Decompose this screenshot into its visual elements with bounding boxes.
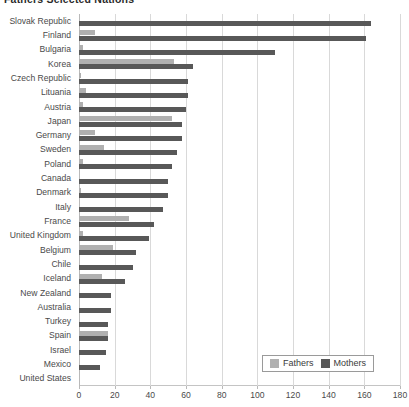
bar-mothers	[79, 107, 186, 112]
x-axis-ticks: 020406080100120140160180	[79, 386, 400, 402]
gridline-160	[364, 14, 365, 386]
y-axis-label: Austria	[44, 103, 71, 112]
y-axis-label: United Kingdom	[10, 231, 71, 240]
bar-fathers	[79, 30, 95, 35]
x-tick-label: 0	[77, 390, 82, 400]
x-tick-label: 40	[146, 390, 156, 400]
y-axis-label: Korea	[48, 60, 71, 69]
bar-fathers	[79, 159, 83, 164]
bar-mothers	[79, 136, 182, 141]
bar-mothers	[79, 350, 106, 355]
bar-fathers	[79, 188, 81, 193]
x-tick-mark-160	[364, 386, 365, 389]
bar-mothers	[79, 36, 366, 41]
y-axis-label: France	[44, 217, 71, 226]
bar-mothers	[79, 150, 177, 155]
bar-mothers	[79, 122, 182, 127]
x-tick-mark-140	[329, 386, 330, 389]
y-axis-label: Turkey	[45, 317, 71, 326]
gridline-180	[400, 14, 401, 386]
bar-mothers	[79, 164, 172, 169]
legend-swatch-fathers-icon	[270, 359, 279, 368]
x-tick-mark-100	[257, 386, 258, 389]
x-tick-label: 120	[286, 390, 300, 400]
bar-fathers	[79, 130, 95, 135]
bar-mothers	[79, 179, 168, 184]
legend-label: Fathers	[283, 359, 314, 368]
legend-label: Mothers	[334, 359, 367, 368]
y-axis-label: Mexico	[44, 360, 71, 369]
bar-mothers	[79, 193, 168, 198]
y-axis-label: Belgium	[40, 246, 71, 255]
y-axis-label: Bulgaria	[39, 45, 71, 54]
x-tick-mark-80	[222, 386, 223, 389]
bar-mothers	[79, 222, 154, 227]
bar-fathers	[79, 45, 83, 50]
y-axis-label: Poland	[44, 160, 71, 169]
chart-legend: FathersMothers	[262, 355, 374, 372]
bar-fathers	[79, 102, 83, 107]
y-axis-label: Czech Republic	[11, 74, 71, 83]
gridline-120	[293, 14, 294, 386]
y-axis-label: Canada	[41, 174, 71, 183]
y-axis-label: Germany	[36, 131, 71, 140]
y-axis-label: Lituania	[41, 88, 71, 97]
x-tick-label: 100	[250, 390, 264, 400]
bar-mothers	[79, 322, 108, 327]
bar-fathers	[79, 88, 86, 93]
bar-fathers	[79, 145, 104, 150]
y-axis-label: Chile	[51, 260, 71, 269]
chart-title: Fathers Selected Nations	[4, 0, 134, 5]
x-tick-label: 180	[393, 390, 407, 400]
bar-mothers	[79, 250, 136, 255]
y-axis-label: Slovak Republic	[9, 17, 71, 26]
bar-mothers	[79, 50, 275, 55]
bar-fathers	[79, 245, 113, 250]
bar-fathers	[79, 73, 81, 78]
y-axis-label: United States	[19, 374, 71, 383]
x-tick-label: 160	[357, 390, 371, 400]
bar-mothers	[79, 265, 133, 270]
y-axis-label: Spain	[49, 331, 71, 340]
gridline-80	[222, 14, 223, 386]
x-tick-mark-120	[293, 386, 294, 389]
bar-mothers	[79, 64, 193, 69]
y-axis-label: Finland	[43, 31, 71, 40]
gridline-40	[150, 14, 151, 386]
x-tick-label: 80	[217, 390, 227, 400]
y-axis-label: Japan	[48, 117, 71, 126]
bar-fathers	[79, 59, 174, 64]
y-axis-label: Denmark	[36, 188, 71, 197]
bar-mothers	[79, 79, 188, 84]
bar-mothers	[79, 93, 188, 98]
gridline-140	[329, 14, 330, 386]
y-axis-label: New Zealand	[20, 289, 71, 298]
y-axis-label: Sweden	[40, 145, 71, 154]
y-axis-label: Israel	[50, 346, 71, 355]
x-tick-label: 140	[321, 390, 335, 400]
bar-mothers	[79, 207, 163, 212]
gridline-60	[186, 14, 187, 386]
x-tick-label: 20	[110, 390, 120, 400]
x-tick-label: 60	[181, 390, 191, 400]
x-tick-mark-60	[186, 386, 187, 389]
bar-mothers	[79, 236, 149, 241]
plot-area	[79, 14, 400, 386]
bar-fathers	[79, 116, 172, 121]
y-axis-category-labels: Slovak RepublicFinlandBulgariaKoreaCzech…	[0, 14, 75, 386]
legend-swatch-mothers-icon	[321, 359, 330, 368]
bar-fathers	[79, 231, 83, 236]
y-axis-label: Iceland	[43, 274, 71, 283]
bar-mothers	[79, 293, 111, 298]
bar-mothers	[79, 21, 371, 26]
legend-entry-mothers[interactable]: Mothers	[321, 359, 367, 368]
x-tick-mark-40	[150, 386, 151, 389]
bar-fathers	[79, 216, 129, 221]
bar-mothers	[79, 365, 100, 370]
gridline-100	[257, 14, 258, 386]
bar-fathers	[79, 274, 102, 279]
legend-entry-fathers[interactable]: Fathers	[270, 359, 314, 368]
x-tick-mark-20	[115, 386, 116, 389]
bar-mothers	[79, 308, 111, 313]
x-tick-mark-180	[400, 386, 401, 389]
